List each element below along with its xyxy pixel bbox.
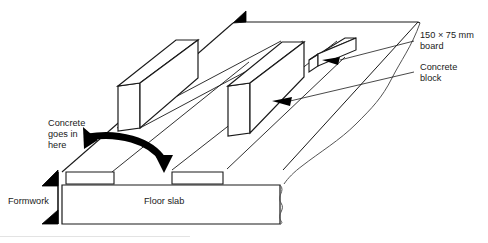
pour-arrow-head [155,155,173,173]
pour-label-line3: here [48,140,66,150]
caption-smudge [0,236,190,237]
board-label-line2: board [420,41,444,51]
board-label-line1: 150 × 75 mm [420,30,474,40]
construction-diagram: 150 × 75 mm board Concrete block Concret… [0,0,488,243]
board-1-front-face [118,83,140,131]
floor-slab-label: Floor slab [144,196,184,206]
deck-corner-wedge [233,11,246,23]
concrete-blocks-front-row [66,172,223,184]
board-3 [309,38,356,72]
pour-label-line1: Concrete [48,118,85,128]
formwork-wedge-bottom [42,210,58,224]
concrete-block-front-1 [66,172,114,184]
block-label-line1: Concrete [420,62,457,72]
formwork-label: Formwork [8,196,49,206]
deck-surface [233,11,420,23]
caption-remnant [0,236,190,237]
board-1 [118,40,198,131]
board-2-front-face [228,83,250,136]
pour-label-line2: goes in [48,129,78,139]
block-label-line2: block [420,73,442,83]
formwork-wedge-top [42,170,58,186]
deck-back-edge [240,22,420,23]
figure-container: 150 × 75 mm board Concrete block Concret… [0,0,488,243]
board-2 [228,42,304,136]
leader-line-block [290,72,414,101]
concrete-block-front-2 [172,172,223,184]
